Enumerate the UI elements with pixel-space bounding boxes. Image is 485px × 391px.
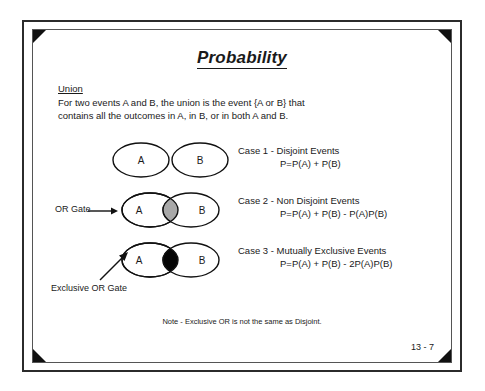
page-title: Probability <box>33 48 451 68</box>
or-gate-label: OR Gate <box>55 204 91 214</box>
venn-diagram-non-disjoint: A B <box>108 186 233 234</box>
venn-label-b: B <box>199 255 206 266</box>
corner-triangle-top-right <box>438 30 451 43</box>
union-heading: Union <box>58 83 388 94</box>
case-3-title: Case 3 - Mutually Exclusive Events <box>238 244 443 257</box>
corner-triangle-top-left <box>33 30 46 43</box>
venn-diagram-disjoint: A B <box>108 136 233 184</box>
case-3-formula: P=P(A) + P(B) - 2P(A)P(B) <box>238 257 443 270</box>
case-1-title: Case 1 - Disjoint Events <box>238 144 443 157</box>
case-3-text: Case 3 - Mutually Exclusive Events P=P(A… <box>238 244 443 270</box>
case-row-disjoint: A B Case 1 - Disjoint Events P=P(A) + P(… <box>33 136 451 184</box>
exclusive-or-gate-arrow-icon <box>98 252 130 282</box>
venn-label-a: A <box>138 155 145 166</box>
venn-label-b: B <box>197 155 204 166</box>
case-1-text: Case 1 - Disjoint Events P=P(A) + P(B) <box>238 144 443 170</box>
case-2-text: Case 2 - Non Disjoint Events P=P(A) + P(… <box>238 194 443 220</box>
page-title-text: Probability <box>197 48 287 69</box>
case-2-title: Case 2 - Non Disjoint Events <box>238 194 443 207</box>
venn-label-b: B <box>199 205 206 216</box>
case-2-formula: P=P(A) + P(B) - P(A)P(B) <box>238 207 443 220</box>
case-row-non-disjoint: OR Gate A <box>33 186 451 234</box>
case-1-formula: P=P(A) + P(B) <box>238 157 443 170</box>
case-row-mutually-exclusive: A B Case 3 - Mutually Exclusive Events P… <box>33 236 451 284</box>
venn-label-a: A <box>136 255 143 266</box>
union-text-line-2: contains all the outcomes in A, in B, or… <box>58 109 388 122</box>
exclusive-or-gate-label: Exclusive OR Gate <box>51 283 127 293</box>
slide-frame: Probability Union For two events A and B… <box>32 29 452 363</box>
footer-note: Note - Exclusive OR is not the same as D… <box>33 317 451 326</box>
union-definition-block: Union For two events A and B, the union … <box>58 83 388 122</box>
union-text-line-1: For two events A and B, the union is the… <box>58 96 388 109</box>
corner-triangle-bottom-left <box>33 349 46 362</box>
slide-page: Probability Union For two events A and B… <box>0 0 485 391</box>
venn-label-a: A <box>136 205 143 216</box>
corner-triangle-bottom-right <box>438 349 451 362</box>
page-number: 13 - 7 <box>411 342 434 352</box>
